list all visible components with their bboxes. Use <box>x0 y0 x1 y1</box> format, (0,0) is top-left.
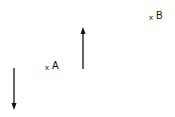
arrowhead-up-icon <box>81 27 86 34</box>
arrowhead-down-icon <box>12 103 17 110</box>
up-arrow <box>81 27 86 69</box>
point-a-label: A <box>52 61 59 71</box>
point-b-label: B <box>156 11 163 21</box>
down-arrow <box>12 68 17 110</box>
point-a-marker: x <box>45 64 49 72</box>
point-b-marker: x <box>149 14 153 22</box>
